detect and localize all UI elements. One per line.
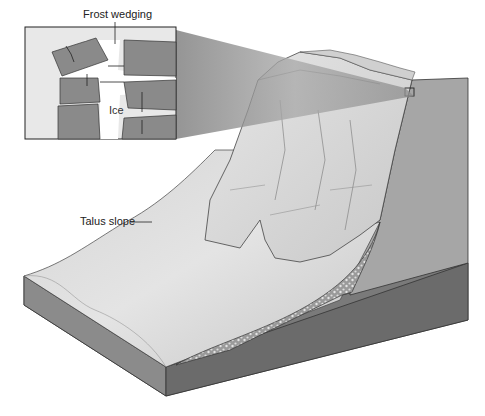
talus-slope-label: Talus slope <box>80 215 135 227</box>
inset-frost-wedging <box>25 22 176 139</box>
frost-wedging-label: Frost wedging <box>83 8 152 20</box>
frost-wedging-talus-diagram <box>0 0 485 416</box>
ice-label: Ice <box>109 104 124 116</box>
